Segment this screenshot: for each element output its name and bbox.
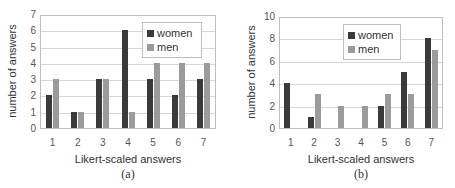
x-tick-label: 6 bbox=[401, 138, 415, 148]
y-tick-label: 7 bbox=[22, 10, 36, 20]
y-tick-label: 1 bbox=[22, 108, 36, 118]
x-tick-label: 3 bbox=[96, 138, 110, 148]
bar-women bbox=[197, 79, 203, 128]
legend-item-men: men bbox=[147, 40, 197, 54]
bar-men bbox=[129, 112, 135, 128]
gridline bbox=[41, 80, 215, 81]
y-tick-label: 6 bbox=[22, 26, 36, 36]
legend-label: men bbox=[358, 43, 379, 55]
gridline bbox=[280, 62, 442, 63]
y-tick-label: 8 bbox=[261, 34, 275, 44]
y-tick-label: 6 bbox=[261, 57, 275, 67]
y-tick-label: 10 bbox=[261, 12, 275, 22]
legend-swatch-women bbox=[348, 32, 355, 39]
x-tick-label: 5 bbox=[377, 138, 391, 148]
x-tick-label: 4 bbox=[121, 138, 135, 148]
y-tick-label: 3 bbox=[22, 75, 36, 85]
y-tick-label: 2 bbox=[261, 102, 275, 112]
bar-women bbox=[308, 117, 314, 128]
legend-label: women bbox=[358, 29, 393, 41]
x-tick-label: 2 bbox=[307, 138, 321, 148]
bar-men bbox=[53, 79, 59, 128]
legend-swatch-men bbox=[147, 44, 154, 51]
bar-men bbox=[315, 94, 321, 128]
legend-swatch-men bbox=[348, 46, 355, 53]
x-tick-label: 1 bbox=[284, 138, 298, 148]
y-tick-label: 2 bbox=[22, 91, 36, 101]
bar-men bbox=[204, 63, 210, 128]
legend-item-men: men bbox=[348, 42, 396, 56]
bar-women bbox=[96, 79, 102, 128]
figure-caption: (a) bbox=[40, 167, 216, 182]
bar-women bbox=[401, 72, 407, 128]
bar-women bbox=[378, 106, 384, 128]
legend: womenmen bbox=[343, 24, 401, 60]
bar-men bbox=[385, 94, 391, 128]
gridline bbox=[280, 84, 442, 85]
y-tick-label: 0 bbox=[22, 124, 36, 134]
bar-men bbox=[78, 112, 84, 128]
bar-men bbox=[179, 63, 185, 128]
bar-men bbox=[432, 50, 438, 128]
x-tick-label: 1 bbox=[46, 138, 60, 148]
bar-women bbox=[425, 38, 431, 128]
x-axis-label: Likert-scaled answers bbox=[40, 153, 216, 165]
bar-men bbox=[154, 63, 160, 128]
x-axis-label: Likert-scaled answers bbox=[279, 153, 443, 165]
bar-men bbox=[338, 106, 344, 128]
bar-men bbox=[103, 79, 109, 128]
x-tick-label: 5 bbox=[146, 138, 160, 148]
figure-caption: (b) bbox=[279, 167, 443, 182]
bar-women bbox=[284, 83, 290, 128]
bar-women bbox=[46, 95, 52, 128]
bar-women bbox=[122, 30, 128, 128]
x-tick-label: 6 bbox=[171, 138, 185, 148]
x-tick-label: 4 bbox=[354, 138, 368, 148]
bar-women bbox=[71, 112, 77, 128]
legend-swatch-women bbox=[147, 30, 154, 37]
y-tick-label: 4 bbox=[261, 79, 275, 89]
y-tick-label: 0 bbox=[261, 124, 275, 134]
y-tick-label: 5 bbox=[22, 43, 36, 53]
gridline bbox=[41, 96, 215, 97]
legend: womenmen bbox=[142, 22, 202, 58]
y-axis-label: number of answers bbox=[6, 16, 18, 126]
bar-men bbox=[408, 94, 414, 128]
legend-item-women: women bbox=[147, 26, 197, 40]
y-axis-label: number of answers bbox=[245, 17, 257, 127]
x-tick-label: 3 bbox=[331, 138, 345, 148]
gridline bbox=[41, 64, 215, 65]
legend-item-women: women bbox=[348, 28, 396, 42]
bar-women bbox=[147, 79, 153, 128]
legend-label: women bbox=[157, 27, 192, 39]
legend-label: men bbox=[157, 41, 178, 53]
bar-women bbox=[172, 95, 178, 128]
bar-men bbox=[362, 106, 368, 128]
x-tick-label: 7 bbox=[196, 138, 210, 148]
x-tick-label: 7 bbox=[424, 138, 438, 148]
x-tick-label: 2 bbox=[71, 138, 85, 148]
y-tick-label: 4 bbox=[22, 59, 36, 69]
